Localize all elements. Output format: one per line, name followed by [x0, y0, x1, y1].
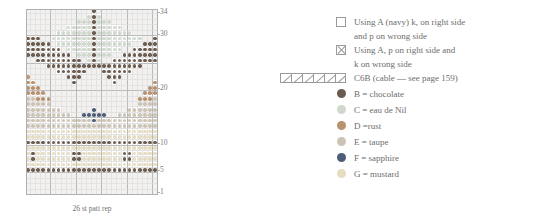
chart-dot: [143, 48, 147, 52]
chart-dot: [41, 152, 45, 156]
chart-dot: [97, 113, 101, 117]
chart-dot: [113, 31, 117, 35]
row-number-label: 10: [160, 139, 168, 147]
chart-dot: [36, 37, 40, 41]
chart-dot: [92, 119, 96, 123]
chart-dot: [72, 42, 76, 46]
chart-dot: [113, 59, 117, 63]
legend-swatch-cell: [296, 16, 346, 27]
chart-dot: [148, 135, 152, 139]
chart-dot: [67, 37, 71, 41]
legend-item: E = taupe: [296, 136, 532, 151]
chart-dot: [77, 20, 81, 24]
chart-dot: [123, 146, 127, 150]
chart-dot: [138, 48, 142, 52]
chart-dot: [47, 48, 51, 52]
chart-dot: [113, 152, 117, 156]
chart-dot: [57, 163, 61, 167]
chart-dot: [107, 37, 111, 41]
legend-label-line2: k on wrong side: [354, 58, 532, 72]
chart-dot: [67, 135, 71, 139]
chart-dot: [26, 152, 30, 156]
chart-dot: [143, 42, 147, 46]
chart-dot: [87, 37, 91, 41]
chart-dot: [148, 124, 152, 128]
chart-dot: [107, 163, 111, 167]
cable-slash-icon: [280, 73, 346, 83]
chart-dot: [148, 163, 152, 167]
chart-dot: [26, 37, 30, 41]
chart-dot: [67, 48, 71, 52]
chart-dot: [148, 91, 152, 95]
chart-dot: [153, 119, 157, 123]
chart-dot: [31, 141, 35, 145]
chart-dot: [148, 168, 152, 172]
chart-dot: [102, 37, 106, 41]
chart-dot: [31, 48, 35, 52]
chart-dot: [153, 135, 157, 139]
legend-swatch-cell: [296, 136, 346, 146]
chart-dot: [72, 81, 76, 85]
chart-dot: [57, 157, 61, 161]
chart-dot: [52, 113, 56, 117]
chart-dot: [143, 152, 147, 156]
color-dot-icon: [337, 89, 346, 98]
chart-dot: [92, 152, 96, 156]
chart-dot: [128, 119, 132, 123]
chart-dot: [82, 141, 86, 145]
chart-dot: [57, 59, 61, 63]
chart-dot: [97, 42, 101, 46]
chart-dot: [123, 64, 127, 68]
chart-dot: [72, 163, 76, 167]
chart-dot: [31, 42, 35, 46]
chart-dot: [77, 75, 81, 79]
legend-item: D =rust: [296, 120, 532, 135]
chart-dot: [41, 168, 45, 172]
chart-dot: [92, 9, 96, 13]
chart-row-numbers: 3430201051: [160, 9, 182, 195]
chart-dot: [102, 124, 106, 128]
legend-label-line1: Using A, p on right side and: [354, 45, 455, 55]
chart-dot: [72, 152, 76, 156]
chart-dot: [87, 64, 91, 68]
chart-dot: [47, 102, 51, 106]
chart-dot: [118, 70, 122, 74]
repeat-label: 26 st patt rep: [26, 204, 158, 213]
chart-dot: [148, 113, 152, 117]
chart-dot: [57, 48, 61, 52]
chart-dot: [62, 135, 66, 139]
chart-dot: [57, 168, 61, 172]
chart-dot: [92, 64, 96, 68]
chart-dot: [57, 135, 61, 139]
empty-square-icon: [336, 17, 346, 27]
chart-dot: [67, 168, 71, 172]
chart-dot: [82, 152, 86, 156]
chart-dot: [148, 108, 152, 112]
chart-dot: [148, 102, 152, 106]
chart-dot: [92, 146, 96, 150]
chart-dot: [26, 97, 30, 101]
chart-dot: [138, 157, 142, 161]
chart-dot: [148, 42, 152, 46]
chart-dot: [36, 102, 40, 106]
chart-grid: [26, 9, 158, 195]
chart-dot: [128, 42, 132, 46]
chart-dot: [118, 124, 122, 128]
chart-dot: [82, 37, 86, 41]
chart-dot: [143, 124, 147, 128]
chart-dot: [118, 64, 122, 68]
chart-dot: [82, 130, 86, 134]
legend-label: Using A (navy) k, on right sideand p on …: [346, 16, 532, 43]
chart-dot: [123, 37, 127, 41]
chart-dot: [26, 86, 30, 90]
chart-dot: [97, 31, 101, 35]
chart-dot: [128, 163, 132, 167]
chart-dot: [143, 141, 147, 145]
chart-dot: [97, 53, 101, 57]
chart-dot: [113, 48, 117, 52]
chart-dot: [52, 146, 56, 150]
chart-dot: [67, 130, 71, 134]
chart-dot: [138, 108, 142, 112]
chart-dot: [26, 108, 30, 112]
legend-label: Using A, p on right side andk on wrong s…: [346, 44, 532, 71]
